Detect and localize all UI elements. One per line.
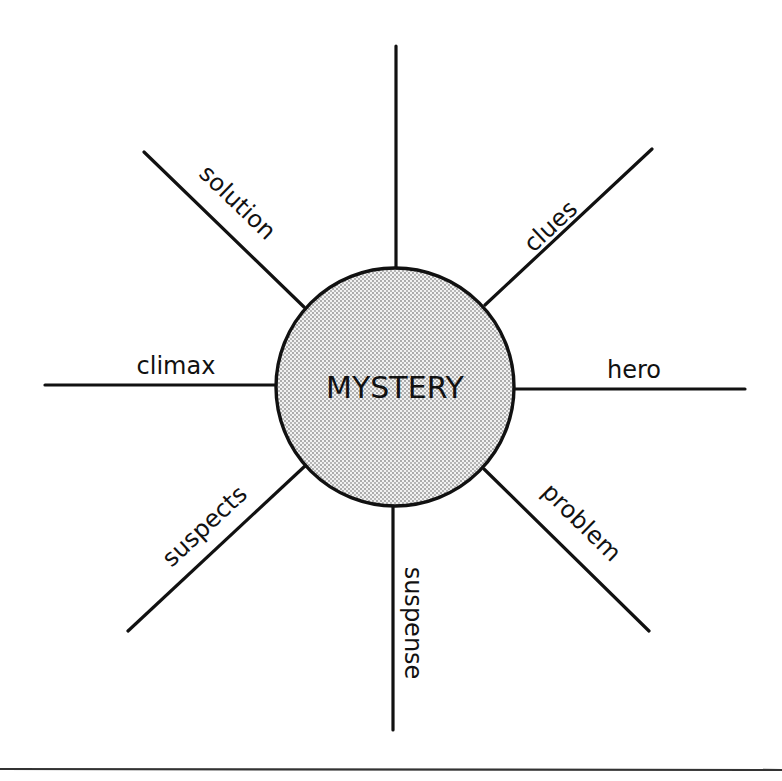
center-label: MYSTERY <box>326 370 464 405</box>
bottom-rule <box>0 769 782 770</box>
label-suspense: suspense <box>399 567 427 680</box>
label-solution: solution <box>194 159 282 245</box>
label-hero: hero <box>607 356 661 384</box>
label-problem: problem <box>536 478 626 568</box>
mystery-spider-map: MYSTERY clues hero problem suspense susp… <box>0 0 782 781</box>
label-climax: climax <box>137 352 216 380</box>
spoke-bottom-left <box>128 466 305 631</box>
label-clues: clues <box>518 195 583 258</box>
